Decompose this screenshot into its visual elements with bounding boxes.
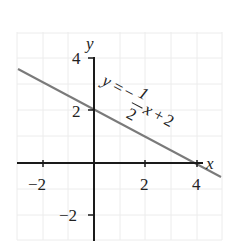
x-tick-label: 4 xyxy=(192,175,201,194)
y-tick-label: 2 xyxy=(72,102,81,121)
y-tick-label: −2 xyxy=(59,206,77,225)
x-axis xyxy=(17,160,203,167)
x-tick-label: 2 xyxy=(140,175,149,194)
chart-canvas: x y −2 2 4 4 2 −2 y = − 1 2 x + 2 xyxy=(0,0,237,243)
grid xyxy=(17,32,222,240)
x-axis-label: x xyxy=(205,154,214,173)
equation-label: y = − 1 2 x + 2 xyxy=(89,65,183,142)
x-tick-label: −2 xyxy=(28,175,46,194)
svg-text:2: 2 xyxy=(123,104,139,125)
y-tick-label: 4 xyxy=(72,49,81,68)
y-axis-label: y xyxy=(84,34,94,53)
y-axis xyxy=(88,57,94,241)
